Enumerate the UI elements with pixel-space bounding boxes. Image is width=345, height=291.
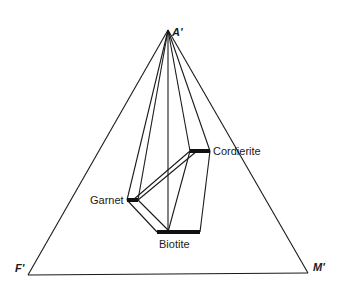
- phase-label-cordierite: Cordierite: [213, 145, 261, 157]
- phase-label-garnet: Garnet: [90, 194, 124, 206]
- phase-label-biotite: Biotite: [159, 238, 190, 250]
- afm-diagram: A' F' M' Garnet Cordierite Biotite: [0, 0, 345, 291]
- vertex-label-f: F': [15, 262, 25, 274]
- vertex-label-a: A': [171, 26, 183, 38]
- vertex-label-m: M': [313, 261, 325, 273]
